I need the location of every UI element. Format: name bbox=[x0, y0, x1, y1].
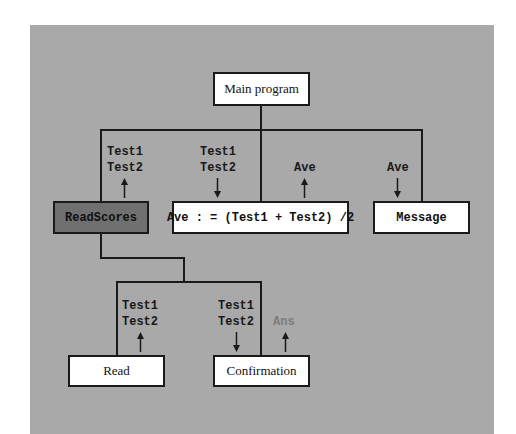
main-program-label: Main program bbox=[224, 81, 299, 97]
arrow-down-icon bbox=[213, 178, 222, 198]
confirmation-in-test1: Test1 bbox=[218, 298, 254, 314]
connector-to-confirmation bbox=[260, 281, 262, 355]
average-in-test2: Test2 bbox=[200, 160, 236, 176]
connector-main-down bbox=[260, 106, 262, 201]
readscores-box: ReadScores bbox=[53, 201, 149, 234]
average-label: Ave : = (Test1 + Test2) /2 bbox=[167, 211, 354, 225]
read-out-test2: Test2 bbox=[122, 314, 158, 330]
arrow-down-icon bbox=[232, 332, 241, 352]
confirmation-in-test2: Test2 bbox=[218, 314, 254, 330]
confirmation-out-ans: Ans bbox=[273, 314, 295, 330]
message-box: Message bbox=[373, 201, 470, 234]
connector-elbow-horizontal bbox=[100, 257, 185, 259]
average-box: Ave : = (Test1 + Test2) /2 bbox=[172, 201, 349, 234]
connector-bottom-bus bbox=[116, 281, 262, 283]
confirmation-box: Confirmation bbox=[213, 355, 310, 387]
connector-elbow-down bbox=[183, 257, 185, 283]
read-out-test1: Test1 bbox=[122, 298, 158, 314]
connector-to-message bbox=[421, 129, 423, 201]
arrow-up-icon bbox=[120, 178, 129, 198]
connector-readscores-down bbox=[100, 234, 102, 259]
arrow-up-icon bbox=[300, 178, 309, 198]
arrow-down-icon bbox=[393, 178, 402, 198]
arrow-up-icon bbox=[136, 332, 145, 352]
average-out-ave: Ave bbox=[294, 160, 316, 176]
readscores-out-test2: Test2 bbox=[107, 160, 143, 176]
average-in-test1: Test1 bbox=[200, 144, 236, 160]
readscores-label: ReadScores bbox=[65, 211, 137, 225]
read-label: Read bbox=[103, 363, 130, 379]
connector-to-read bbox=[116, 281, 118, 355]
message-label: Message bbox=[396, 211, 446, 225]
connector-to-readscores bbox=[100, 129, 102, 201]
arrow-up-icon bbox=[281, 332, 290, 352]
main-program-box: Main program bbox=[213, 72, 310, 106]
confirmation-label: Confirmation bbox=[226, 363, 296, 379]
connector-top-bus bbox=[100, 129, 423, 131]
readscores-out-test1: Test1 bbox=[107, 144, 143, 160]
message-in-ave: Ave bbox=[387, 160, 409, 176]
read-box: Read bbox=[68, 355, 165, 387]
